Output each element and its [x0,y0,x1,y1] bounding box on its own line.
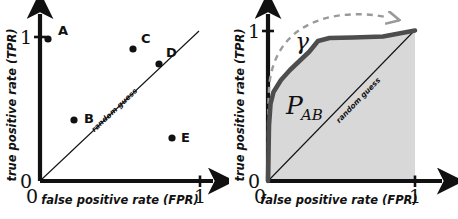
area-label-subscript: AB [299,106,323,124]
point-b-label: B [84,111,94,126]
point-d-label: D [166,45,177,60]
roc-figure: random guess 0 1 0 1 false positive rate… [0,0,458,219]
y-tick-label-1: 1 [248,20,260,42]
y-tick-label-0: 0 [20,170,32,192]
roc-points-panel: random guess 0 1 0 1 false positive rate… [0,0,229,219]
y-axis-label: true positive rate (TPR) [5,28,19,181]
point-a-label: A [58,23,68,38]
x-axis-label: false positive rate (FPR) [41,193,198,207]
y-tick-label-0: 0 [248,170,260,192]
point-b: B [70,111,94,126]
x-axis-label: false positive rate (FPR) [260,193,417,207]
gamma-label: γ [295,28,309,54]
point-c: C [129,31,150,53]
point-d: D [155,45,177,68]
point-e: E [168,130,189,145]
y-axis-label: true positive rate (TPR) [233,28,247,181]
roc-curve-panel: random guess γ P AB 0 1 0 1 false positi… [229,0,458,219]
y-tick-label-1: 1 [20,26,32,48]
random-guess-label: random guess [89,86,139,134]
point-e-label: E [181,130,190,145]
point-a: A [44,23,68,43]
point-c-label: C [141,31,151,46]
